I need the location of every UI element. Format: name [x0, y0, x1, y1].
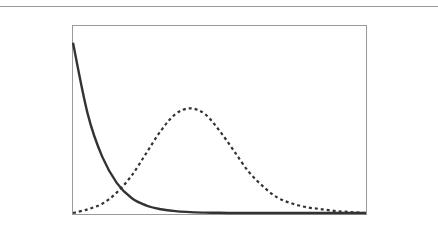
plot-frame [73, 26, 367, 215]
dashed-gaussian-series [73, 108, 366, 213]
solid-decay-series [73, 43, 366, 213]
chart [0, 0, 438, 226]
